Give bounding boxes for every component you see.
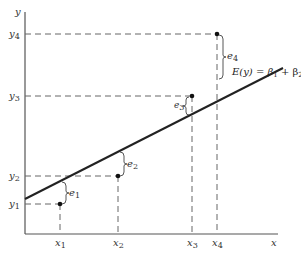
regression-diagram: y x e1 e2 e3 e4 y1 y2 y3 y4 x1 x2 x3 x4 (0, 0, 301, 254)
y-label-1: y1 (8, 198, 20, 211)
y-label-2: y2 (8, 170, 20, 183)
x-axis-label: x (271, 237, 277, 248)
dashed-guides (25, 34, 217, 234)
y-axis-label: y (14, 6, 21, 17)
error-label-1: e1 (69, 187, 80, 200)
data-point-4 (215, 32, 220, 37)
data-point-3 (190, 94, 195, 99)
data-point-1 (58, 202, 63, 207)
error-label-4: e4 (227, 50, 238, 63)
data-point-2 (116, 174, 121, 179)
x-label-2: x2 (113, 237, 124, 250)
error-label-3: e3 (174, 100, 184, 112)
x-label-1: x1 (55, 237, 66, 250)
y-label-3: y3 (8, 90, 20, 103)
x-label-3: x3 (187, 237, 198, 250)
y-label-4: y4 (8, 28, 20, 41)
error-label-2: e2 (127, 158, 138, 171)
regression-line (25, 68, 283, 199)
error-braces (62, 35, 226, 204)
x-label-4: x4 (212, 237, 223, 250)
